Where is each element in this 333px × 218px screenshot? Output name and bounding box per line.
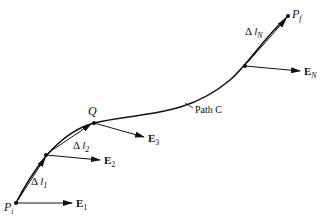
label-en: EN [304, 65, 317, 80]
label-delta-l1: Δ l1 [31, 175, 47, 190]
point-pf [286, 14, 290, 18]
e3-arrow [94, 123, 144, 137]
en-arrow [245, 66, 300, 71]
label-e2: E2 [104, 154, 115, 169]
label-pf: Pf [291, 7, 303, 23]
label-delta-l2: Δ l2 [73, 139, 89, 154]
label-pi: Pi [3, 200, 14, 216]
label-delta-ln: Δ lN [245, 25, 263, 40]
path-c-curve [16, 17, 287, 203]
e2-arrow [46, 155, 100, 160]
line-integral-diagram: Pi Q Pf Path C Δ l1 Δ l2 Δ lN E1 E2 E3 E… [0, 0, 333, 218]
label-q: Q [88, 104, 97, 118]
label-e3: E3 [148, 132, 159, 147]
label-e1: E1 [76, 197, 87, 212]
label-path-c: Path C [195, 104, 222, 115]
